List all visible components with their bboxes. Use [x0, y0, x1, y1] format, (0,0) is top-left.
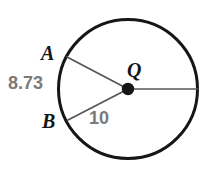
point-label-a: A: [41, 43, 54, 63]
point-label-q: Q: [127, 60, 141, 80]
radius-segment-qa: [67, 57, 128, 89]
measure-label-chord-ab: 8.73: [8, 74, 43, 92]
point-label-b: B: [42, 111, 55, 131]
center-point-dot: [122, 83, 134, 95]
circle-diagram: A B Q 8.73 10: [0, 0, 209, 172]
measure-label-radius: 10: [89, 109, 109, 127]
